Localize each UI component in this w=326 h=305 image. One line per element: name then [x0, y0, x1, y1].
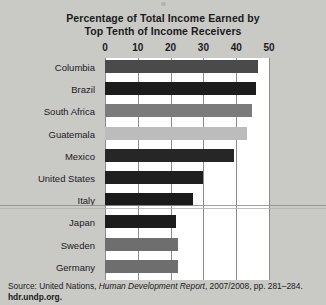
- bar-row: Japan: [0, 213, 326, 235]
- scan-artifact-line: [0, 205, 326, 206]
- scan-artifact-line-secondary: [0, 208, 326, 209]
- bar-row: United States: [0, 169, 326, 191]
- bar-germany: [105, 260, 178, 273]
- source-detail: , 2007/2008, pp. 281–284.: [205, 281, 303, 291]
- bar-row: Sweden: [0, 236, 326, 258]
- bar-row: Germany: [0, 258, 326, 280]
- x-tick-label-0: 0: [90, 42, 120, 53]
- chart-title-line-1: Percentage of Total Income Earned by: [0, 12, 326, 25]
- category-label-columbia: Columbia: [0, 62, 100, 73]
- bar-row: Mexico: [0, 147, 326, 169]
- bar-south-africa: [105, 104, 252, 117]
- source-prefix: Source: United Nations,: [8, 281, 96, 291]
- chart-title: Percentage of Total Income Earned by Top…: [0, 12, 326, 38]
- category-label-japan: Japan: [0, 217, 100, 228]
- bar-sweden: [105, 238, 178, 251]
- bar-brazil: [105, 82, 256, 95]
- category-label-mexico: Mexico: [0, 151, 100, 162]
- bar-row: Italy: [0, 191, 326, 213]
- category-label-germany: Germany: [0, 262, 100, 273]
- source-url[interactable]: hdr.undp.org.: [8, 292, 320, 303]
- source-publication: Human Development Report: [99, 281, 205, 291]
- x-tick-label-40: 40: [221, 42, 251, 53]
- scan-artifact-speck: [161, 2, 166, 6]
- bar-united-states: [105, 171, 203, 184]
- bar-row: South Africa: [0, 102, 326, 124]
- bar-mexico: [105, 149, 234, 162]
- category-label-brazil: Brazil: [0, 84, 100, 95]
- category-label-guatemala: Guatemala: [0, 129, 100, 140]
- category-label-south-africa: South Africa: [0, 106, 100, 117]
- category-label-united-states: United States: [0, 173, 100, 184]
- x-tick-label-10: 10: [123, 42, 153, 53]
- bar-row: Brazil: [0, 80, 326, 102]
- bar-row: Guatemala: [0, 125, 326, 147]
- source-note: Source: United Nations, Human Developmen…: [8, 281, 320, 303]
- bar-japan: [105, 215, 176, 228]
- category-label-sweden: Sweden: [0, 240, 100, 251]
- x-tick-label-50: 50: [254, 42, 284, 53]
- bar-columbia: [105, 60, 258, 73]
- chart-title-line-2: Top Tenth of Income Receivers: [0, 25, 326, 38]
- figure-container: Percentage of Total Income Earned by Top…: [0, 0, 326, 305]
- bar-row: Columbia: [0, 58, 326, 80]
- bar-guatemala: [105, 127, 247, 140]
- x-axis-tick-labels: 01020304050: [0, 42, 326, 56]
- x-tick-label-20: 20: [156, 42, 186, 53]
- x-tick-label-30: 30: [188, 42, 218, 53]
